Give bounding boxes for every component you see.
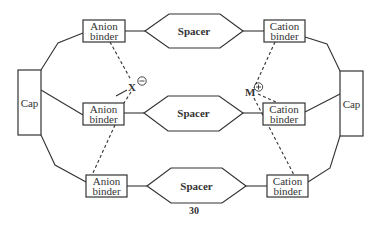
anion-binder-bottom: Anion binder — [86, 175, 127, 197]
left-cap-label: Cap — [21, 97, 39, 109]
anion-guest: X — [128, 77, 146, 93]
cation-binder-mid: Cation binder — [263, 103, 305, 125]
anion-binder-mid-line2: binder — [89, 113, 117, 125]
spacer-mid: Spacer — [144, 96, 243, 131]
right-cap-to-top-cation-link — [305, 37, 340, 71]
x-approach-tick — [116, 90, 127, 96]
right-cap-label: Cap — [343, 98, 361, 110]
right-cap-to-mid-cation-link — [305, 94, 340, 112]
spacer-bottom-label: Spacer — [180, 180, 213, 192]
spacer-top: Spacer — [145, 14, 243, 48]
left-cap-to-mid-anion-link — [41, 90, 83, 115]
right-cap: Cap — [340, 71, 363, 136]
cation-binder-bottom: Cation binder — [267, 175, 308, 197]
spacer-top-label: Spacer — [178, 25, 211, 37]
right-cap-links — [305, 37, 340, 182]
anion-symbol: X — [128, 81, 136, 93]
cation-guest: M — [245, 83, 263, 98]
m-to-mid-cation-dash — [258, 94, 276, 102]
anion-binder-top: Anion binder — [83, 20, 125, 42]
cation-binder-mid-line2: binder — [270, 113, 298, 125]
top-cation-to-m-dash — [254, 42, 275, 88]
left-cap: Cap — [18, 70, 41, 135]
left-cap-links — [41, 33, 86, 182]
left-cap-to-top-anion-link — [41, 33, 83, 70]
cation-binder-top: Cation binder — [264, 20, 305, 42]
molecular-receptor-diagram: Cap Cap Anion binder Anion binder Anion … — [0, 0, 377, 227]
mid-anion-to-bottom-anion-dash — [92, 125, 115, 175]
figure-number: 30 — [189, 205, 199, 216]
x-to-mid-anion-dash — [124, 92, 131, 103]
right-cap-to-bottom-cation-link — [308, 136, 340, 182]
cation-binder-top-line2: binder — [270, 30, 298, 42]
anion-binder-mid: Anion binder — [83, 103, 124, 125]
anion-binder-bottom-line2: binder — [92, 185, 120, 197]
top-anion-to-x-dash — [110, 42, 131, 80]
left-cap-to-bottom-anion-link — [41, 135, 86, 182]
spacer-mid-label: Spacer — [177, 107, 210, 119]
cation-binder-bottom-line2: binder — [273, 185, 301, 197]
anion-binder-top-line2: binder — [90, 30, 118, 42]
spacer-bottom: Spacer — [147, 168, 246, 203]
